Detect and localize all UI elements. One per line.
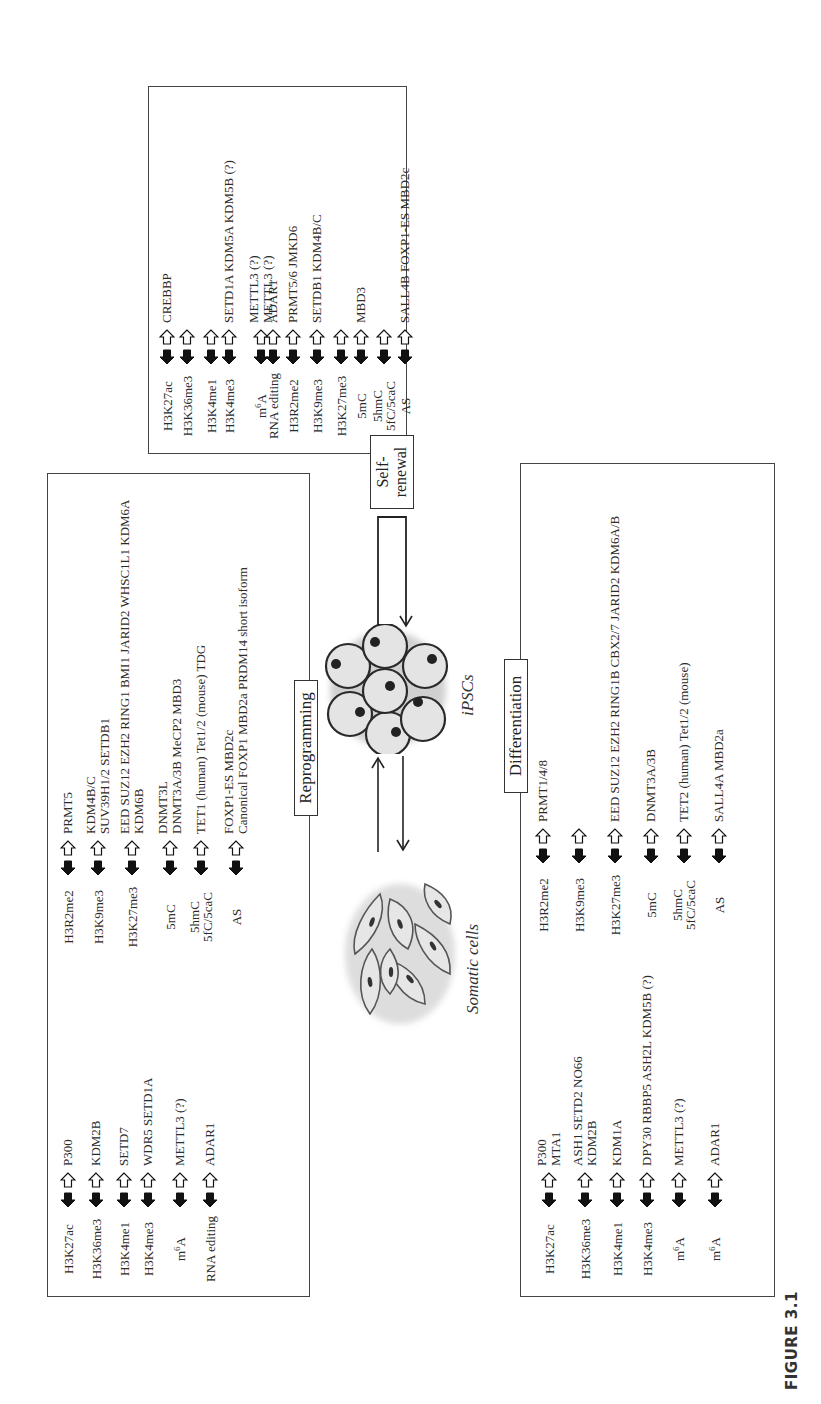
regulation-arrows: [140, 1170, 156, 1210]
mark-label: H3K27me3: [609, 866, 622, 944]
epigenetic-row: 5mCDNMT3LDNMT3A/3B MeCP2 MBD3: [156, 679, 184, 956]
regulation-arrows: [221, 327, 237, 367]
mark-label: 5hmC5fC/5caC: [371, 367, 397, 445]
arrow-pair-icon: [88, 1172, 104, 1208]
regulation-arrows: [643, 826, 659, 866]
regulation-arrows: [116, 1170, 132, 1210]
epigenetic-row: H3K27me3: [333, 323, 349, 445]
epigenetic-row: H3K9me3SETDB1 KDM4B/C: [309, 214, 325, 445]
epigenetic-row: m6AMETTL3 (?): [172, 1098, 188, 1288]
regulation-arrows: [179, 327, 195, 367]
mark-label: AS: [230, 878, 243, 956]
regulation-arrows: [228, 838, 244, 878]
gene-list: TET1 (human) Tet1/2 (mouse) TDG: [194, 645, 208, 838]
epigenetic-row: RNA editingADAR1: [265, 280, 281, 445]
epigenetic-row: H3K4me1: [203, 323, 219, 445]
gene-list: DNMT3LDNMT3A/3B MeCP2 MBD3: [156, 679, 184, 838]
arrow-pair-icon: [124, 840, 140, 876]
gene-list: CREBBP: [160, 273, 174, 327]
regulation-arrows: [60, 838, 76, 878]
regulation-arrows: [202, 1170, 218, 1210]
mark-label: H3K9me3: [311, 367, 324, 445]
mark-label: H3K27ac: [62, 1210, 75, 1288]
arrow-pair-icon: [162, 840, 178, 876]
epigenetic-row: 5hmC5fC/5caC: [371, 323, 397, 445]
arrow-pair-icon: [60, 840, 76, 876]
arrow-pair-icon: [202, 1172, 218, 1208]
gene-list: ADAR1: [708, 1123, 722, 1170]
mark-label: m6A: [673, 1210, 686, 1288]
regulation-arrows: [397, 327, 413, 367]
gene-list: DPY30 RBBP5 ASH2L KDM5B (?): [640, 975, 654, 1170]
epigenetic-row: H3R2me2PRMT5/6 JMKD6: [285, 226, 301, 445]
gene-list: DNMT3A/3B: [644, 749, 658, 826]
arrow-pair-icon: [707, 1172, 723, 1208]
figure-canvas: H3K27acP300H3K36me3KDM2BH3K4me1SETD7H3K4…: [0, 0, 821, 1404]
mark-label: H3K27ac: [161, 367, 174, 445]
gene-list: P300MTA1: [535, 1132, 563, 1170]
regulation-arrows: [571, 826, 587, 866]
somatic-cells-illustration: [330, 874, 470, 1034]
mark-label: H3K27me3: [335, 367, 348, 445]
mark-label: H3K36me3: [181, 367, 194, 445]
regulation-arrows: [671, 1170, 687, 1210]
gene-list: PRMT5/6 JMKD6: [286, 226, 300, 327]
gene-list: FOXP1-ES MBD2cCanonical FOXP1 MBD2a PRDM…: [222, 567, 250, 838]
gene-list: METTL3 (?): [672, 1098, 686, 1170]
mark-label: 5mC: [355, 367, 368, 445]
arrow-pair-icon: [571, 828, 587, 864]
arrow-pair-icon: [541, 1172, 557, 1208]
arrow-pair-icon: [333, 329, 349, 365]
mark-label: RNA editing: [267, 367, 280, 445]
epigenetic-row: H3K4me3SETD1A KDM5A KDM5B (?): [221, 160, 237, 445]
mark-label: 5hmC5fC/5caC: [671, 866, 697, 944]
arrow-pair-icon: [711, 828, 727, 864]
differentiation-label: Differentiation: [504, 659, 528, 793]
gene-list: SALL4A MBD2a: [712, 729, 726, 826]
epigenetic-row: ASFOXP1-ES MBD2cCanonical FOXP1 MBD2a PR…: [222, 567, 250, 956]
regulation-arrows: [639, 1170, 655, 1210]
epigenetic-row: H3K4me1KDM1A: [609, 1120, 625, 1288]
gene-list: MBD3: [354, 287, 368, 327]
epigenetic-row: H3R2me2PRMT1/4/8: [535, 760, 551, 944]
regulation-arrows: [333, 327, 349, 367]
arrow-pair-icon: [577, 1172, 593, 1208]
arrow-pair-icon: [159, 329, 175, 365]
arrow-pair-icon: [179, 329, 195, 365]
arrow-pair-icon: [607, 828, 623, 864]
epigenetic-row: H3K9me3: [571, 822, 587, 944]
epigenetic-row: H3K27acCREBBP: [159, 273, 175, 445]
mark-label: H3R2me2: [62, 878, 75, 956]
arrow-pair-icon: [397, 329, 413, 365]
gene-list: PRMT5: [61, 792, 75, 838]
arrow-pair-icon: [671, 1172, 687, 1208]
mark-label: H3K4me3: [641, 1210, 654, 1288]
regulation-arrows: [676, 826, 692, 866]
epigenetic-row: H3K27acP300: [60, 1139, 76, 1288]
gene-list: ASH1 SETD2 NO66KDM2B: [571, 1056, 599, 1170]
arrow-pair-icon: [172, 1172, 188, 1208]
mark-label: 5mC: [645, 866, 658, 944]
regulation-arrows: [376, 327, 392, 367]
arrow-pair-icon: [228, 840, 244, 876]
epigenetic-row: H3K36me3: [179, 323, 195, 445]
regulation-arrows: [193, 838, 209, 878]
mark-label: RNA editing: [204, 1210, 217, 1288]
figure-label: FIGURE 3.1: [783, 1291, 801, 1390]
mark-label: AS: [399, 367, 412, 445]
regulation-arrows: [88, 1170, 104, 1210]
mark-label: H3K36me3: [90, 1210, 103, 1288]
regulation-arrows: [541, 1170, 557, 1210]
epigenetic-row: 5hmC5fC/5caCTET2 (human) Tet1/2 (mouse): [671, 662, 697, 944]
mark-label: m6A: [174, 1210, 187, 1288]
mark-label: 5hmC5fC/5caC: [188, 878, 214, 956]
gene-list: P300: [61, 1139, 75, 1170]
regulation-arrows: [172, 1170, 188, 1210]
gene-list: METTL3 (?): [173, 1098, 187, 1170]
gene-list: TET2 (human) Tet1/2 (mouse): [677, 662, 691, 826]
regulation-arrows: [535, 826, 551, 866]
epigenetic-row: H3K27me3EED SUZ12 EZH2 RING1 BMI1 JARID2…: [118, 499, 146, 956]
mark-label: H3K27ac: [543, 1210, 556, 1288]
self-renewal-loop-arrow: [370, 514, 415, 629]
reprogramming-label: Reprogramming: [294, 680, 318, 816]
